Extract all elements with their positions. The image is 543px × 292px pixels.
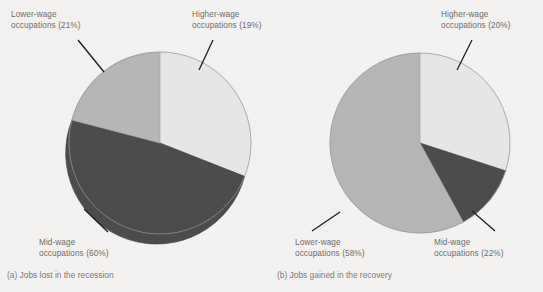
chart-a-label-higher-wage: Higher-wage occupations (19%): [192, 10, 262, 31]
chart-b-label-mid-wage-line2: occupations (22%): [434, 249, 504, 260]
chart-a-label-higher-wage-line1: Higher-wage: [192, 10, 262, 21]
chart-a-label-lower-wage-line1: Lower-wage: [11, 10, 81, 21]
chart-a-label-lower-wage-line2: occupations (21%): [11, 21, 81, 32]
chart-b-caption: (b) Jobs gained in the recovery: [277, 270, 392, 281]
chart-b-label-mid-wage-line1: Mid-wage: [434, 238, 504, 249]
chart-b-label-lower-wage-line1: Lower-wage: [295, 238, 365, 249]
chart-a-label-mid-wage-line1: Mid-wage: [39, 238, 109, 249]
figure-two-pie-charts: Lower-wage occupations (21%) Higher-wage…: [0, 0, 543, 292]
chart-b-leader-mid-wage: [472, 211, 495, 231]
chart-a-caption: (a) Jobs lost in the recession: [7, 270, 114, 281]
chart-a-label-lower-wage: Lower-wage occupations (21%): [11, 10, 81, 31]
chart-b-label-higher-wage-line1: Higher-wage: [441, 10, 511, 21]
chart-a-pie: [66, 52, 251, 244]
chart-a-label-higher-wage-line2: occupations (19%): [192, 21, 262, 32]
chart-b-label-mid-wage: Mid-wage occupations (22%): [434, 238, 504, 259]
chart-b-label-lower-wage-line2: occupations (58%): [295, 249, 365, 260]
chart-a-leader-lower-wage: [78, 40, 104, 72]
chart-b-label-higher-wage-line2: occupations (20%): [441, 21, 511, 32]
chart-b-label-higher-wage: Higher-wage occupations (20%): [441, 10, 511, 31]
chart-a-label-mid-wage: Mid-wage occupations (60%): [39, 238, 109, 259]
chart-b-leader-lower-wage: [312, 212, 340, 231]
chart-b-label-lower-wage: Lower-wage occupations (58%): [295, 238, 365, 259]
chart-b-pie: [330, 53, 510, 233]
chart-a-label-mid-wage-line2: occupations (60%): [39, 249, 109, 260]
